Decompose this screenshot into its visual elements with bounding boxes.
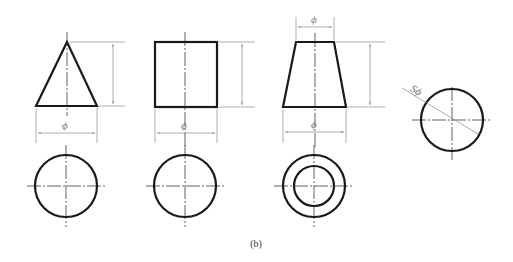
cone-outline <box>36 42 97 106</box>
cylinder-phi-label: ϕ <box>181 119 187 131</box>
sphere-view: Sϕ <box>402 82 492 160</box>
cone-phi-label: ϕ <box>62 119 68 131</box>
frustum-bottom-phi-label: ϕ <box>311 118 317 130</box>
cylinder-front-view: ϕ <box>155 32 255 147</box>
cylinder-outline <box>155 42 217 107</box>
cone-top-view <box>27 145 106 227</box>
cylinder-top-view <box>146 145 225 227</box>
frustum-top-phi-label: ϕ <box>311 13 317 25</box>
frustum-front-view: ϕ ϕ <box>283 13 385 147</box>
cone-front-view: ϕ <box>36 32 125 143</box>
figure-caption: (b) <box>250 238 262 250</box>
three-view-drawing: ϕ ϕ ϕ ϕ <box>0 0 513 262</box>
frustum-outline <box>283 42 346 107</box>
frustum-top-view <box>274 145 354 227</box>
sphere-diameter-label: Sϕ <box>409 82 425 98</box>
